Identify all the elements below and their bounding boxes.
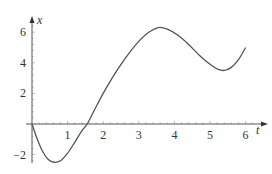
y-axis-arrow-icon bbox=[30, 16, 35, 23]
y-tick-label: −2 bbox=[13, 148, 26, 162]
data-curve bbox=[32, 27, 246, 162]
line-chart: 123456 −2246 t x bbox=[0, 0, 272, 174]
y-tick-labels: −2246 bbox=[13, 25, 26, 161]
x-tick-label: 1 bbox=[65, 128, 71, 142]
x-tick-labels: 123456 bbox=[65, 128, 249, 142]
y-axis-label: x bbox=[36, 13, 43, 27]
x-tick-label: 3 bbox=[136, 128, 142, 142]
y-tick-label: 6 bbox=[20, 25, 26, 39]
x-axis-arrow-icon bbox=[261, 122, 268, 127]
x-axis-label: t bbox=[256, 123, 260, 137]
y-tick-label: 4 bbox=[20, 56, 26, 70]
x-tick-label: 2 bbox=[100, 128, 106, 142]
y-tick-label: 2 bbox=[20, 86, 26, 100]
x-tick-label: 4 bbox=[171, 128, 177, 142]
x-tick-label: 6 bbox=[243, 128, 249, 142]
x-tick-label: 5 bbox=[207, 128, 213, 142]
